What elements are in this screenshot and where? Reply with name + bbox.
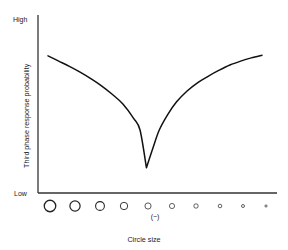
x-axis-title: Circle size	[127, 235, 160, 244]
circle-size-marker	[265, 205, 267, 207]
y-axis-title: Third phase response probability	[22, 63, 31, 168]
chart-canvas: High Low Third phase response probabilit…	[0, 0, 288, 250]
circle-size-marker	[218, 204, 222, 208]
circle-size-marker	[96, 202, 105, 211]
data-series-curve	[48, 55, 262, 167]
standard-circle-annotation: (−)	[151, 213, 160, 221]
circle-size-marker	[242, 205, 245, 208]
circle-size-marker-row	[44, 200, 267, 212]
chart-figure: High Low Third phase response probabilit…	[0, 0, 288, 250]
circle-size-marker	[70, 201, 80, 211]
circle-size-marker	[169, 203, 174, 208]
circle-size-marker	[194, 204, 198, 208]
y-tick-label-high: High	[13, 16, 28, 24]
circle-size-marker	[44, 200, 56, 212]
y-tick-label-low: Low	[14, 190, 28, 197]
circle-size-marker	[120, 202, 127, 209]
circle-size-marker	[145, 203, 151, 209]
